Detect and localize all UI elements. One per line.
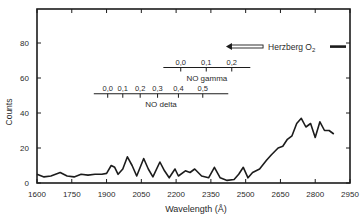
y-tick-label: 60 bbox=[20, 74, 29, 83]
band-label: NO delta bbox=[145, 100, 177, 109]
spectrum-line bbox=[37, 118, 334, 180]
band-tick-label: 0,3 bbox=[152, 84, 162, 93]
y-tick-label: 0 bbox=[25, 179, 30, 188]
y-tick-label: 20 bbox=[20, 144, 29, 153]
y-axis-label: Counts bbox=[4, 99, 14, 126]
x-tick-label: 1750 bbox=[63, 190, 81, 199]
axes: 1600175019002050220023502500265028002950… bbox=[20, 9, 359, 199]
x-tick-label: 1600 bbox=[28, 190, 46, 199]
x-tick-label: 2500 bbox=[237, 190, 255, 199]
band-tick-label: 0,2 bbox=[135, 84, 145, 93]
band-tick-label: 0,0 bbox=[102, 84, 112, 93]
x-tick-label: 2950 bbox=[341, 190, 359, 199]
x-tick-label: 2200 bbox=[167, 190, 185, 199]
x-tick-label: 1900 bbox=[98, 190, 116, 199]
x-axis-label: Wavelength (Å) bbox=[165, 204, 227, 214]
herzberg-arrow-head bbox=[226, 43, 232, 50]
x-tick-label: 2800 bbox=[306, 190, 324, 199]
band-tick-label: 0,2 bbox=[227, 58, 237, 67]
herzberg-label: Herzberg O2 bbox=[268, 42, 316, 54]
band-tick-label: 0,1 bbox=[201, 58, 211, 67]
x-tick-label: 2650 bbox=[272, 190, 290, 199]
band-tick-label: 0,0 bbox=[176, 58, 186, 67]
plot-frame bbox=[37, 9, 350, 183]
x-tick-label: 2050 bbox=[132, 190, 150, 199]
band-tick-label: 0,4 bbox=[173, 84, 183, 93]
spectrum-chart: 1600175019002050220023502500265028002950… bbox=[0, 0, 364, 218]
y-tick-label: 80 bbox=[20, 39, 29, 48]
band-label: NO gamma bbox=[186, 74, 227, 83]
band-tick-label: 0,1 bbox=[118, 84, 128, 93]
y-tick-label: 40 bbox=[20, 109, 29, 118]
band-annotations: 0,00,10,2NO gamma0,00,10,20,30,40,5NO de… bbox=[94, 42, 346, 109]
x-tick-label: 2350 bbox=[202, 190, 220, 199]
herzberg-bar bbox=[330, 45, 346, 48]
herzberg-arrow-shaft bbox=[231, 45, 263, 48]
band-tick-label: 0,5 bbox=[198, 84, 208, 93]
